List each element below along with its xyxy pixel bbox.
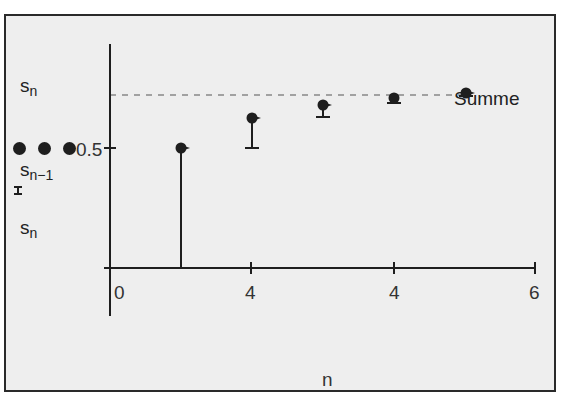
- x-tick-label-6: 6: [529, 282, 540, 303]
- x-tick-label-4: 4: [389, 282, 400, 303]
- error-bars: [181, 94, 473, 268]
- legend-errorbar-icon: [14, 187, 22, 194]
- x-tick-label-0: 0: [114, 282, 125, 303]
- y-tick-label: 0.5: [76, 139, 102, 160]
- x-tick-label-2: 4: [245, 282, 256, 303]
- plot-area: 0.5 0 4 4 6 n Summe: [0, 0, 561, 409]
- x-axis-label: n: [322, 369, 333, 390]
- data-points: [176, 88, 476, 154]
